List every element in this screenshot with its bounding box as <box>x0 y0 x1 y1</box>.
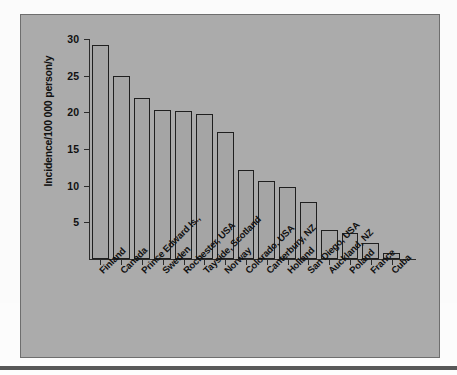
y-tick-label: 5 <box>57 216 79 228</box>
bar <box>113 76 130 259</box>
chart-figure: Incidence/100 000 person/y 51015202530 F… <box>0 0 457 375</box>
plot-area: Incidence/100 000 person/y 51015202530 F… <box>21 15 441 359</box>
y-tick-label: 20 <box>57 106 79 118</box>
y-axis-line <box>89 39 90 260</box>
page-bottom-edge <box>0 366 457 370</box>
y-tick-mark <box>84 149 89 150</box>
y-tick-label: 10 <box>57 180 79 192</box>
y-tick-label: 25 <box>57 70 79 82</box>
y-tick-mark <box>84 112 89 113</box>
y-tick-label: 30 <box>57 33 79 45</box>
y-tick-mark <box>84 39 89 40</box>
y-axis-title: Incidence/100 000 person/y <box>42 41 54 201</box>
bar <box>92 45 109 259</box>
chart-panel: Incidence/100 000 person/y 51015202530 F… <box>20 14 440 358</box>
y-tick-mark <box>84 186 89 187</box>
y-tick-mark <box>84 76 89 77</box>
bar <box>134 98 151 259</box>
y-tick-mark <box>84 222 89 223</box>
y-tick-label: 15 <box>57 143 79 155</box>
